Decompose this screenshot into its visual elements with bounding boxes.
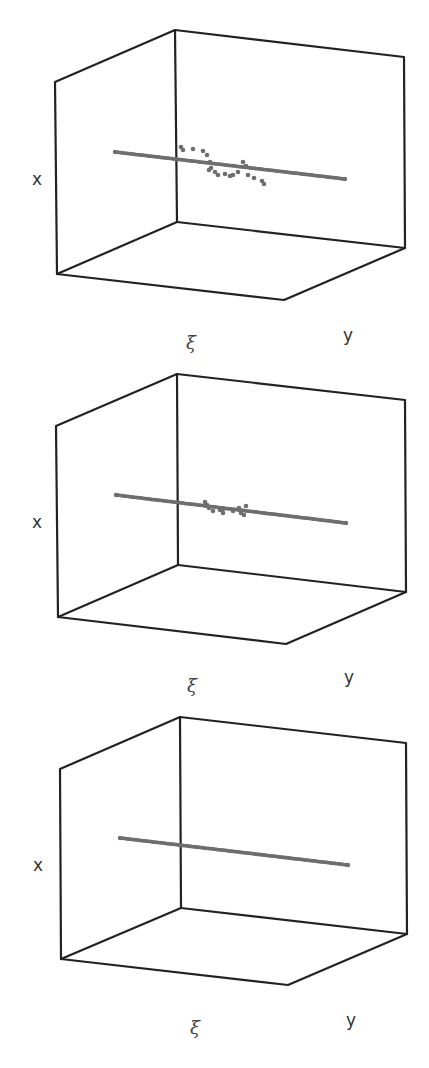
axis-label-x: x: [33, 855, 43, 875]
scatter-points: [118, 836, 350, 867]
data-point-perturbation: [231, 173, 236, 178]
data-point-perturbation: [223, 172, 228, 177]
data-point-perturbation: [191, 147, 196, 152]
data-point-perturbation: [246, 173, 251, 178]
data-point-perturbation: [208, 160, 213, 165]
data-point-perturbation: [207, 168, 212, 173]
scatter-points: [113, 145, 347, 187]
figure-canvas: x ξ y x ξ y x ξ y: [0, 0, 429, 1068]
data-point-perturbation: [237, 506, 242, 511]
data-point-perturbation: [252, 176, 257, 181]
data-point-perturbation: [221, 511, 226, 516]
data-point: [346, 863, 350, 867]
axis-label-x: x: [32, 169, 42, 189]
data-point-perturbation: [205, 153, 210, 158]
axis-label-y: y: [343, 325, 353, 345]
panel-middle: x ξ y: [32, 374, 406, 696]
data-point-perturbation: [236, 170, 241, 175]
data-point-perturbation: [231, 509, 236, 514]
axis-label-x: x: [32, 512, 42, 532]
data-point-perturbation: [244, 164, 249, 169]
axis-label-xi: ξ: [186, 332, 197, 353]
data-point-perturbation: [207, 506, 212, 511]
data-point-perturbation: [221, 507, 226, 512]
data-point: [343, 177, 347, 181]
axis-label-xi: ξ: [190, 1017, 201, 1038]
data-point-perturbation: [242, 513, 247, 518]
axis-label-y: y: [346, 1010, 356, 1030]
data-point-perturbation: [201, 149, 206, 154]
data-point-perturbation: [241, 160, 246, 165]
axis-label-y: y: [344, 667, 354, 687]
data-point-perturbation: [211, 509, 216, 514]
data-point-perturbation: [216, 173, 221, 178]
data-point-perturbation: [181, 148, 186, 153]
panel-top: x ξ y: [32, 30, 405, 353]
data-point-perturbation: [244, 504, 249, 509]
scatter-points: [114, 493, 348, 525]
data-point-perturbation: [262, 182, 267, 187]
axis-label-xi: ξ: [187, 675, 198, 696]
data-point: [344, 521, 348, 525]
panel-bottom: x ξ y: [33, 717, 407, 1038]
